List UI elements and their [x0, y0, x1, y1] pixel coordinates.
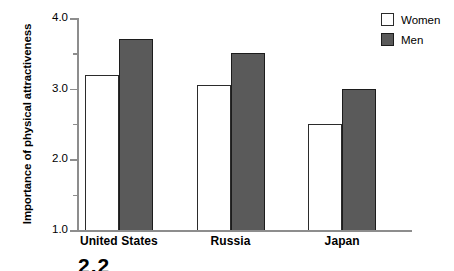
x-axis-line [77, 230, 412, 232]
chart-legend: Women Men [381, 11, 451, 51]
legend-item-men: Men [381, 31, 451, 48]
legend-label-men: Men [401, 34, 423, 46]
y-axis-title: Importance of physical attractiveness [21, 19, 33, 229]
bar-japan-women [308, 124, 342, 230]
bar-chart-figure: Importance of physical attractiveness 4.… [0, 0, 454, 271]
bar-united-states-women [85, 75, 119, 230]
bar-russia-men [231, 53, 265, 230]
legend-item-women: Women [381, 11, 451, 28]
x-label-russia: Russia [167, 234, 295, 248]
y-axis-line [77, 18, 79, 230]
y-tick-minor [73, 124, 78, 125]
y-tick-major [70, 159, 77, 161]
legend-label-women: Women [401, 14, 440, 26]
y-tick-major [70, 18, 77, 20]
bar-russia-women [197, 85, 231, 230]
legend-swatch-men-icon [381, 33, 394, 46]
y-tick-minor [73, 53, 78, 54]
bar-japan-men [342, 89, 376, 230]
legend-swatch-women-icon [381, 13, 394, 26]
y-tick-major [70, 89, 77, 91]
y-tick-major [70, 230, 77, 232]
x-label-japan: Japan [278, 234, 406, 248]
bar-united-states-men [119, 39, 153, 230]
y-tick-label: 2.0 [34, 152, 68, 164]
x-label-united-states: United States [55, 234, 183, 248]
y-tick-label: 3.0 [34, 82, 68, 94]
y-tick-minor [73, 195, 78, 196]
y-tick-label: 4.0 [34, 11, 68, 23]
plot-area: 4.03.02.01.0 United StatesRussiaJapan [77, 18, 412, 230]
figure-caption-stub: 2.2 [78, 259, 110, 271]
